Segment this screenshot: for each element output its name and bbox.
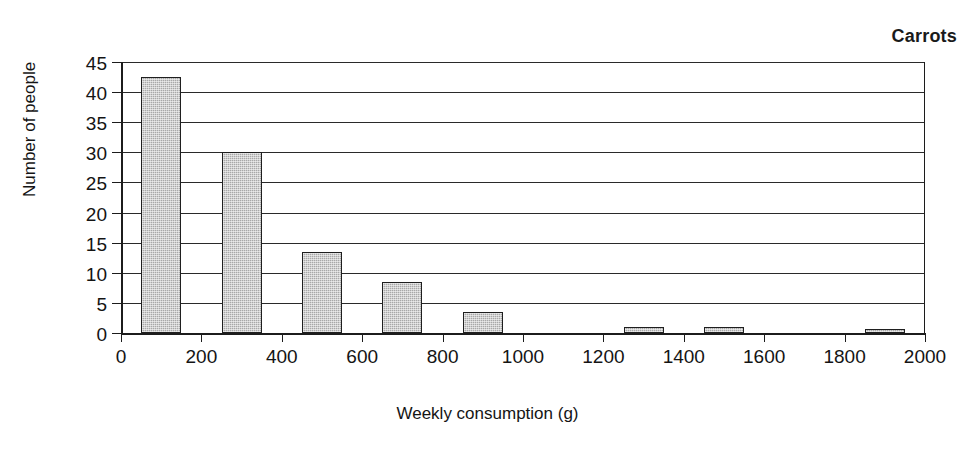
y-axis-tick-label: 35 xyxy=(86,114,107,133)
x-axis-tick-label: 1000 xyxy=(502,347,544,366)
y-axis-tick-label: 20 xyxy=(86,204,107,223)
x-axis-tick-label: 2000 xyxy=(904,347,946,366)
y-axis-tick-label: 25 xyxy=(86,174,107,193)
x-axis-tick xyxy=(523,333,524,342)
x-axis-tick xyxy=(201,333,202,342)
x-axis-tick xyxy=(845,333,846,342)
y-axis-tick: 25 xyxy=(112,182,121,183)
y-axis-tick-label: 30 xyxy=(86,144,107,163)
bar xyxy=(463,312,503,333)
y-axis-tick: 30 xyxy=(112,152,121,153)
plot-area: 051015202530354045 020040060080010001200… xyxy=(121,62,925,333)
x-axis-tick-label: 200 xyxy=(186,347,218,366)
x-axis-tick-label: 0 xyxy=(116,347,127,366)
x-axis-tick xyxy=(362,333,363,342)
y-axis-tick: 10 xyxy=(112,273,121,274)
bar xyxy=(141,77,181,333)
x-axis-tick xyxy=(925,333,926,342)
x-axis-tick xyxy=(764,333,765,342)
x-axis-tick-label: 1400 xyxy=(663,347,705,366)
y-axis-tick: 0 xyxy=(112,333,121,334)
x-axis-tick xyxy=(684,333,685,342)
bar xyxy=(624,327,664,333)
y-axis-tick-label: 10 xyxy=(86,264,107,283)
y-axis-tick-label: 15 xyxy=(86,234,107,253)
chart-title: Carrots xyxy=(892,26,957,47)
y-axis-tick: 45 xyxy=(112,62,121,63)
y-axis-tick-label: 5 xyxy=(96,294,107,313)
y-axis-title: Number of people xyxy=(20,62,40,197)
x-axis-tick xyxy=(121,333,122,342)
x-axis-tick xyxy=(282,333,283,342)
bar xyxy=(302,252,342,333)
bar xyxy=(704,327,744,333)
bar xyxy=(222,152,262,333)
y-axis-tick-label: 0 xyxy=(96,325,107,344)
y-axis-tick: 40 xyxy=(112,92,121,93)
bar xyxy=(382,282,422,333)
x-axis-tick-label: 600 xyxy=(346,347,378,366)
x-axis-title: Weekly consumption (g) xyxy=(0,404,975,424)
x-axis-tick-label: 800 xyxy=(427,347,459,366)
bar xyxy=(865,329,905,333)
y-axis-tick: 35 xyxy=(112,122,121,123)
y-axis-tick: 5 xyxy=(112,303,121,304)
y-axis-tick: 20 xyxy=(112,213,121,214)
x-axis-tick xyxy=(443,333,444,342)
histogram-figure: Carrots Number of people 051015202530354… xyxy=(0,0,975,461)
x-axis-tick-label: 1800 xyxy=(823,347,865,366)
x-axis-tick xyxy=(603,333,604,342)
x-axis-tick-label: 1600 xyxy=(743,347,785,366)
x-axis-tick-label: 1200 xyxy=(582,347,624,366)
y-axis-tick-label: 45 xyxy=(86,54,107,73)
y-axis-tick-label: 40 xyxy=(86,84,107,103)
x-axis-tick-label: 400 xyxy=(266,347,298,366)
y-axis-tick: 15 xyxy=(112,243,121,244)
